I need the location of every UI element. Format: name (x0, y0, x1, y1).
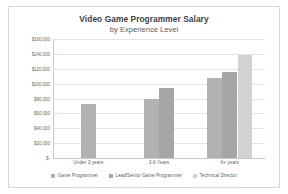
legend-label: Technical Director (200, 173, 237, 178)
bar-group (124, 39, 195, 158)
y-axis-tick-label: $100,000 (12, 81, 50, 86)
y-axis-tick-label: $60,000 (12, 111, 50, 116)
x-axis-tick-labels: Under 3 years3-6 Years6+ years (53, 160, 265, 170)
chart-card: Video Game Programmer Salary by Experien… (8, 6, 280, 188)
legend-swatch-icon (109, 174, 113, 178)
bar (159, 88, 174, 158)
y-axis-tick-label: $160,000 (12, 37, 50, 42)
legend-item[interactable]: Game Programmer (51, 173, 98, 178)
x-axis-tick-label: Under 3 years (73, 160, 103, 165)
bar-group (194, 39, 265, 158)
y-axis-tick-label: $- (12, 156, 50, 161)
legend-label: Lead/Senior Game Programmer (115, 173, 182, 178)
legend-item[interactable]: Technical Director (193, 173, 237, 178)
gridline (53, 158, 265, 159)
bar (207, 78, 222, 158)
y-axis-tick-label: $120,000 (12, 66, 50, 71)
bar-group (53, 39, 124, 158)
y-axis-tick-label: $40,000 (12, 126, 50, 131)
legend-item[interactable]: Lead/Senior Game Programmer (109, 173, 182, 178)
chart-title-block: Video Game Programmer Salary by Experien… (9, 14, 279, 35)
bar (222, 72, 237, 158)
y-axis-tick-label: $20,000 (12, 141, 50, 146)
bar (81, 104, 96, 158)
x-axis-tick-label: 3-6 Years (149, 160, 169, 165)
page-title: Video Game Programmer Salary (9, 14, 279, 25)
y-axis-tick-label: $80,000 (12, 96, 50, 101)
plot-area (53, 39, 265, 158)
legend-swatch-icon (193, 174, 197, 178)
legend-label: Game Programmer (58, 173, 98, 178)
x-axis-tick-label: 6+ years (220, 160, 239, 165)
y-axis-tick-label: $140,000 (12, 51, 50, 56)
chart-subtitle: by Experience Level (9, 25, 279, 35)
y-axis-tick-labels: $-$20,000$40,000$60,000$80,000$100,000$1… (9, 39, 50, 158)
chart-legend: Game ProgrammerLead/Senior Game Programm… (9, 173, 279, 178)
bar (144, 99, 159, 159)
bar (238, 55, 253, 158)
legend-swatch-icon (51, 174, 55, 178)
